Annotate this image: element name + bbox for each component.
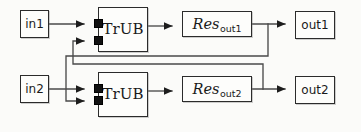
node-res-out1-label-main: Res bbox=[192, 16, 219, 32]
node-res-out2-label: Resout2 bbox=[192, 81, 241, 97]
node-out1[interactable]: out1 bbox=[295, 11, 335, 39]
port-trub1-bottom[interactable] bbox=[94, 36, 103, 45]
node-res-out2[interactable]: Resout2 bbox=[182, 76, 252, 102]
port-trub1-top[interactable] bbox=[94, 19, 103, 28]
node-trub1-label: TrUB bbox=[103, 20, 144, 38]
node-in1-label: in1 bbox=[25, 17, 44, 31]
node-res-out2-label-sub: out2 bbox=[220, 88, 242, 99]
node-res-out1-label: Resout1 bbox=[192, 16, 241, 32]
node-res-out1-label-sub: out1 bbox=[220, 23, 242, 34]
node-out2[interactable]: out2 bbox=[295, 76, 335, 104]
node-out2-label: out2 bbox=[301, 83, 328, 97]
block-diagram-canvas: in1 in2 TrUB TrUB Resout1 Resout2 out1 o… bbox=[0, 0, 361, 132]
node-trub1[interactable]: TrUB bbox=[98, 7, 148, 52]
node-in2-label: in2 bbox=[25, 82, 44, 96]
port-trub2-bottom[interactable] bbox=[94, 96, 103, 105]
node-trub2[interactable]: TrUB bbox=[98, 72, 148, 117]
node-res-out2-label-main: Res bbox=[192, 81, 219, 97]
node-in2[interactable]: in2 bbox=[20, 75, 49, 103]
node-out1-label: out1 bbox=[301, 18, 328, 32]
port-trub2-top[interactable] bbox=[94, 84, 103, 93]
node-in1[interactable]: in1 bbox=[20, 10, 49, 38]
node-trub2-label: TrUB bbox=[103, 85, 144, 103]
node-res-out1[interactable]: Resout1 bbox=[182, 11, 252, 37]
